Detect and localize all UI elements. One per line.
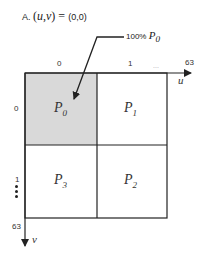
svg-text:...: ... [153, 62, 159, 69]
u-tick-1: 1 [128, 59, 132, 68]
v-ellipsis-icon [15, 185, 19, 200]
v-tick-63: 63 [12, 222, 21, 231]
v-tick-1: 1 [15, 175, 19, 184]
grid-diagram: ... [0, 0, 211, 256]
cell-p2: P2 [124, 172, 137, 190]
cell-p1: P1 [124, 100, 137, 118]
u-axis-label: u [178, 74, 184, 86]
u-tick-63: 63 [185, 58, 194, 67]
v-axis-label: v [32, 233, 37, 245]
cell-p3: P3 [54, 172, 67, 190]
u-tick-0: 0 [57, 59, 61, 68]
cell-p0: P0 [54, 100, 67, 118]
v-tick-0: 0 [14, 104, 18, 113]
